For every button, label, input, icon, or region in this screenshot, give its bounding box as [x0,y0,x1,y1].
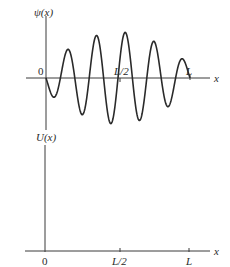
u-tick-origin: 0 [42,255,48,267]
u-tick-half: L/2 [111,255,127,267]
u-tick-end: L [185,255,192,267]
psi-x-label: x [213,72,219,84]
psi-tick-half: L/2 [113,65,129,77]
u-y-label: U(x) [36,131,56,144]
psi-tick-origin: 0 [38,65,44,77]
wavefunction-panel: ψ(x) x 0 L/2 L [26,6,219,130]
potential-panel: U(x) x 0 L/2 L [25,131,219,267]
psi-y-label: ψ(x) [34,6,53,19]
figure: ψ(x) x 0 L/2 L U(x) x 0 L/2 L [0,0,230,267]
u-x-label: x [213,245,219,257]
